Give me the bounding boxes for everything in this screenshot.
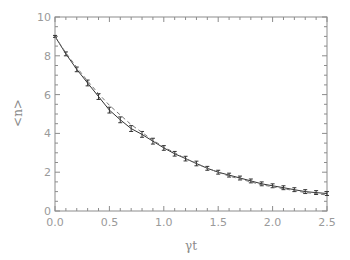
error-bar <box>118 117 122 123</box>
plot-border <box>55 17 327 211</box>
error-bar <box>194 161 198 166</box>
x-tick-label: 1.0 <box>155 216 173 229</box>
error-bar <box>140 131 144 137</box>
x-tick-label: 0.5 <box>101 216 119 229</box>
y-tick-label: 0 <box>44 205 51 218</box>
x-tick-label: 2.0 <box>264 216 282 229</box>
plot-frame <box>55 17 327 211</box>
error-bar <box>129 126 133 132</box>
y-tick-label: 6 <box>44 89 51 102</box>
y-tick-label: 10 <box>37 11 51 24</box>
simulation-line <box>55 36 327 193</box>
x-axis-ticks: 0.00.51.01.52.02.5 <box>46 17 336 229</box>
y-tick-label: 4 <box>44 127 51 140</box>
x-tick-label: 1.5 <box>209 216 227 229</box>
y-tick-label: 2 <box>44 166 51 179</box>
x-axis-label: γt <box>185 239 197 253</box>
x-tick-label: 2.5 <box>318 216 336 229</box>
theory-dashed-line <box>55 36 327 195</box>
chart: 0.00.51.01.52.02.5 0246810 γt <n> <box>0 0 350 260</box>
y-axis-label: <n> <box>11 99 25 127</box>
error-bar <box>184 156 188 161</box>
series-layer <box>53 35 329 195</box>
y-tick-label: 8 <box>44 50 51 63</box>
